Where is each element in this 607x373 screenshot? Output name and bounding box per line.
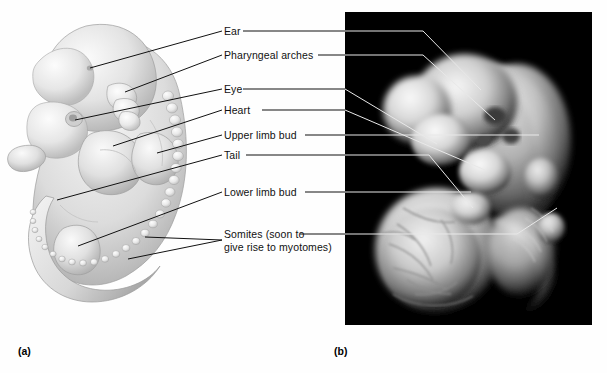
lower-limb-bud-feature xyxy=(54,225,100,275)
photograph-svg xyxy=(345,12,592,325)
label-ear: Ear xyxy=(224,25,241,38)
label-lower-limb-bud: Lower limb bud xyxy=(224,186,297,199)
label-somites-line2: give rise to myotomes) xyxy=(224,241,332,254)
label-pharyngeal-arches: Pharyngeal arches xyxy=(224,49,313,62)
label-somites-line1: Somites (soon to xyxy=(224,228,304,241)
figure-panel-container: Ear Pharyngeal arches Eye Heart Upper li… xyxy=(0,0,607,373)
embryo-photograph-panel xyxy=(345,12,592,325)
label-eye: Eye xyxy=(224,83,242,96)
caption-panel-b: (b) xyxy=(334,345,347,357)
caption-panel-a: (a) xyxy=(18,345,31,357)
label-heart: Heart xyxy=(224,104,250,117)
label-upper-limb-bud: Upper limb bud xyxy=(224,129,297,142)
label-tail: Tail xyxy=(224,149,240,162)
